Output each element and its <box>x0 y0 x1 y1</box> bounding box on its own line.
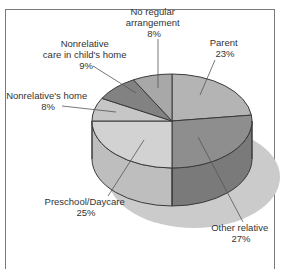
label-nonrelatives-home: Nonrelative's home 8% <box>6 90 90 112</box>
pie-slice-parent <box>172 74 251 121</box>
label-preschool-daycare: Preschool/Daycare 25% <box>45 196 128 218</box>
pie-slices <box>92 74 252 168</box>
label-no-regular-arrangement: No regular arrangement 8% <box>126 6 183 39</box>
label-other-relative: Other relative 27% <box>211 222 271 244</box>
label-parent: Parent 23% <box>210 37 241 59</box>
label-nonrelative-care: Nonrelative care in child's home 9% <box>43 38 129 71</box>
